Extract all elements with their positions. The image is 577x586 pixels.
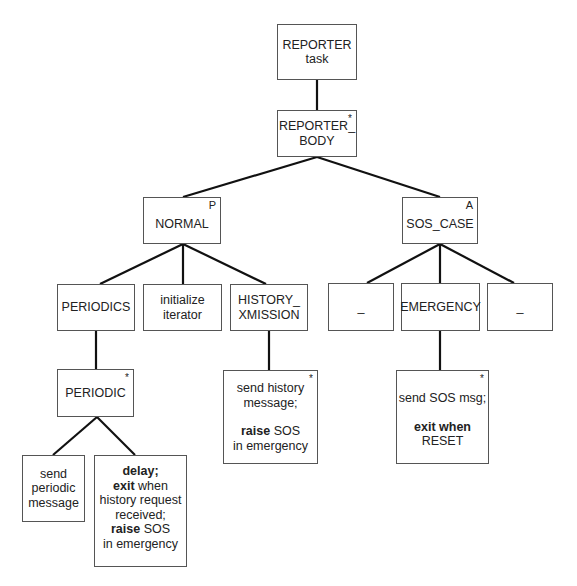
node-label: iterator — [163, 308, 202, 323]
node-null-left: _ — [328, 283, 394, 331]
node-label: initialize — [160, 293, 204, 308]
node-label: in emergency — [103, 537, 178, 552]
keyword: exit when — [414, 420, 471, 435]
parallel-marker: P — [209, 200, 216, 211]
label-text: SOS — [140, 522, 170, 536]
node-sos-case: A SOS_CASE — [402, 197, 478, 244]
node-label: _ — [517, 300, 524, 315]
node-label: REPORTER — [282, 38, 351, 53]
node-normal: P NORMAL — [143, 197, 221, 244]
node-label: send — [40, 467, 67, 482]
node-send-history: * send history message; raise SOS in eme… — [223, 370, 318, 464]
node-label: EMERGENCY — [400, 300, 481, 315]
node-label: _ — [358, 300, 365, 315]
node-label: HISTORY_ — [238, 293, 300, 308]
node-label: message — [28, 496, 79, 511]
node-label: exit when — [113, 479, 168, 494]
node-initialize-iterator: initialize iterator — [143, 284, 222, 331]
keyword: raise — [111, 522, 140, 536]
node-label: in emergency — [233, 439, 308, 454]
iteration-marker: * — [125, 372, 129, 383]
node-label: send SOS msg; — [399, 391, 487, 406]
node-label: send history — [237, 381, 304, 396]
node-null-right: _ — [487, 283, 553, 331]
iteration-marker: * — [309, 373, 313, 384]
node-send-periodic-message: send periodic message — [22, 455, 85, 522]
node-label: PERIODICS — [62, 300, 131, 315]
label-text: when — [135, 479, 168, 493]
node-label: NORMAL — [155, 217, 208, 232]
keyword: delay; — [122, 464, 158, 479]
node-label: REPORTER_ — [279, 119, 355, 134]
iteration-marker: * — [480, 373, 484, 384]
node-emergency: EMERGENCY — [401, 283, 480, 331]
node-label: received; — [115, 508, 166, 523]
iteration-marker: * — [348, 113, 352, 124]
node-label: raise SOS — [241, 424, 300, 439]
keyword: raise — [241, 424, 270, 438]
node-label: history request — [100, 493, 182, 508]
node-reporter-body: * REPORTER_ BODY — [277, 110, 357, 157]
node-label: BODY — [299, 134, 334, 149]
node-send-sos: * send SOS msg; exit when RESET — [396, 370, 489, 464]
node-reporter-task: REPORTER task — [277, 24, 357, 80]
node-label: message; — [243, 396, 297, 411]
node-periodic: * PERIODIC — [57, 369, 134, 417]
node-periodics: PERIODICS — [57, 284, 135, 331]
label-text: SOS — [270, 424, 300, 438]
alternative-marker: A — [466, 200, 473, 211]
node-label: XMISSION — [238, 308, 299, 323]
node-label: raise SOS — [111, 522, 170, 537]
node-label: periodic — [32, 481, 76, 496]
node-label: SOS_CASE — [406, 217, 473, 232]
node-delay: delay; exit when history request receive… — [94, 455, 187, 567]
node-label: task — [306, 52, 329, 67]
node-label: RESET — [422, 434, 464, 449]
keyword: exit — [113, 479, 135, 493]
node-history-xmission: HISTORY_ XMISSION — [230, 284, 308, 331]
node-label: PERIODIC — [65, 386, 125, 401]
